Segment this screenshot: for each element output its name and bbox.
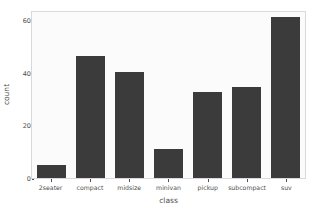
bar-pickup[interactable]: [193, 92, 221, 178]
x-tick-label-compact: compact: [77, 184, 104, 192]
bar-slot: [110, 12, 149, 178]
x-tick-slot: minivan: [149, 179, 188, 197]
x-tick-mark: [90, 179, 91, 182]
bar-subcompact[interactable]: [232, 87, 260, 178]
x-tick-label-2seater: 2seater: [39, 184, 63, 192]
x-tick-slot: subcompact: [227, 179, 266, 197]
bar-slot: [188, 12, 227, 178]
x-tick-slot: suv: [267, 179, 306, 197]
bar-slot: [149, 12, 188, 178]
bar-2seater[interactable]: [37, 165, 65, 178]
bar-series: [32, 12, 305, 178]
y-tick-label: 40: [23, 70, 31, 79]
bar-slot: [227, 12, 266, 178]
x-tick-label-pickup: pickup: [198, 184, 218, 192]
x-tick-label-midsize: midsize: [117, 184, 141, 192]
x-tick-slot: compact: [70, 179, 109, 197]
bar-midsize[interactable]: [115, 72, 143, 178]
bar-slot: [32, 12, 71, 178]
x-tick-label-minivan: minivan: [156, 184, 181, 192]
x-tick-label-suv: suv: [281, 184, 292, 192]
x-tick-mark: [247, 179, 248, 182]
x-axis-title: class: [31, 196, 306, 206]
bar-suv[interactable]: [271, 17, 299, 178]
y-tick-label: 60: [23, 17, 31, 26]
bar-compact[interactable]: [76, 56, 104, 178]
x-tick-label-subcompact: subcompact: [228, 184, 266, 192]
x-tick-mark: [286, 179, 287, 182]
bar-minivan[interactable]: [154, 149, 182, 178]
x-axis: 2seatercompactmidsizeminivanpickupsubcom…: [31, 179, 306, 197]
x-tick-slot: midsize: [110, 179, 149, 197]
plot-panel: [31, 11, 306, 179]
bar-slot: [266, 12, 305, 178]
x-tick-slot: pickup: [188, 179, 227, 197]
x-tick-mark: [51, 179, 52, 182]
x-tick-mark: [208, 179, 209, 182]
bar-slot: [71, 12, 110, 178]
x-tick-mark: [129, 179, 130, 182]
x-tick-slot: 2seater: [31, 179, 70, 197]
y-axis: 0204060: [0, 0, 34, 217]
x-tick-mark: [168, 179, 169, 182]
y-tick-label: 20: [23, 122, 31, 131]
bar-chart-figure: count 0204060 2seatercompactmidsizeminiv…: [0, 0, 315, 217]
